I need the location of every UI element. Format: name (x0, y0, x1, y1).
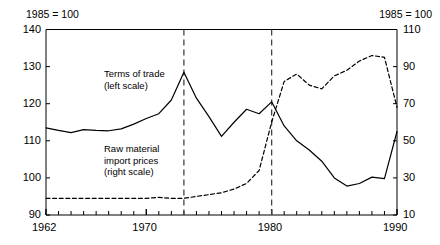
right-axis-tick-label: 50 (403, 134, 415, 146)
plot-area (0, 0, 440, 245)
right-axis-tick-label: 90 (403, 60, 415, 72)
chart-container: 1985 = 100 1985 = 100 Terms of trade (le… (0, 0, 440, 245)
right-axis-tick-label: 110 (403, 23, 421, 35)
axis-layer (46, 30, 397, 216)
x-axis-tick-label: 1970 (132, 221, 156, 233)
left-axis-tick-label: 100 (23, 171, 41, 183)
terms-of-trade-line (46, 72, 397, 186)
left-axis-tick-label: 120 (23, 97, 41, 109)
right-axis-tick-label: 30 (403, 171, 415, 183)
x-axis-tick-label: 1962 (32, 221, 56, 233)
left-axis-tick-label: 110 (23, 134, 41, 146)
left-axis-tick-label: 140 (23, 23, 41, 35)
left-axis-tick-label: 90 (29, 208, 41, 220)
reference-lines-layer (184, 30, 272, 216)
right-axis-tick-label: 10 (403, 208, 415, 220)
x-axis-tick-label: 1980 (258, 221, 282, 233)
right-axis-tick-label: 70 (403, 97, 415, 109)
left-axis-tick-label: 130 (23, 60, 41, 72)
x-axis-tick-label: 1990 (383, 221, 407, 233)
raw-material-import-prices-line (46, 55, 397, 198)
series-layer (46, 55, 397, 198)
